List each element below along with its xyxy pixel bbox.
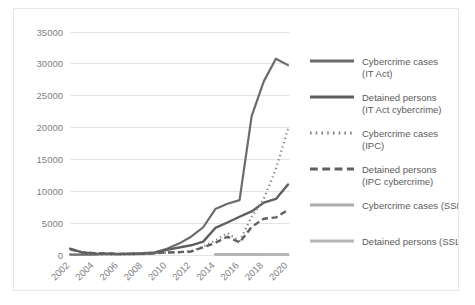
y-axis-tick-label: 5000: [42, 218, 63, 229]
legend-label-6[interactable]: Detained persons (SSL): [362, 236, 458, 247]
gridlines: [70, 32, 290, 255]
x-axis-labels: 2002200420062008201020122014201620182020: [49, 260, 290, 283]
x-axis-tick-label: 2016: [218, 260, 241, 283]
x-axis-tick-label: 2010: [146, 260, 169, 283]
y-axis-tick-label: 0: [58, 250, 63, 261]
y-axis-tick-label: 10000: [37, 186, 63, 197]
line-chart: 05000100001500020000250003000035000 2002…: [14, 9, 458, 290]
y-axis-labels: 05000100001500020000250003000035000: [37, 27, 63, 261]
y-axis-tick-label: 25000: [37, 90, 63, 101]
x-axis-tick-label: 2020: [267, 260, 290, 283]
y-axis-tick-label: 20000: [37, 122, 63, 133]
data-series-group: [70, 59, 288, 255]
legend-label-2[interactable]: Detained persons: [362, 92, 437, 103]
legend-label-3[interactable]: Cybercrime cases: [362, 128, 438, 139]
x-axis-tick-label: 2008: [121, 260, 144, 283]
chart-container: 05000100001500020000250003000035000 2002…: [13, 8, 459, 291]
y-axis-tick-label: 35000: [37, 27, 63, 38]
legend-label-2-line2[interactable]: (IT Act cybercrime): [362, 104, 442, 115]
legend-label-5[interactable]: Cybercrime cases (SSL): [362, 200, 458, 211]
legend: Cybercrime cases(IT Act)Detained persons…: [310, 56, 458, 247]
legend-label-4-line2[interactable]: (IPC cybercrime): [362, 176, 433, 187]
y-axis-tick-label: 15000: [37, 154, 63, 165]
legend-label-1-line2[interactable]: (IT Act): [362, 68, 392, 79]
x-axis-tick-label: 2002: [49, 260, 72, 283]
x-axis-tick-label: 2004: [73, 260, 96, 283]
y-axis-tick-label: 30000: [37, 58, 63, 69]
legend-label-4[interactable]: Detained persons: [362, 164, 437, 175]
x-axis-tick-label: 2014: [194, 260, 217, 283]
legend-label-3-line2[interactable]: (IPC): [362, 140, 384, 151]
x-axis-tick-label: 2012: [170, 260, 193, 283]
legend-label-1[interactable]: Cybercrime cases: [362, 56, 438, 67]
x-axis-tick-label: 2018: [242, 260, 265, 283]
x-axis-tick-label: 2006: [97, 260, 120, 283]
